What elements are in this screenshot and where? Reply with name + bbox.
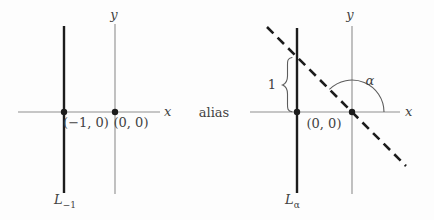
figure-container: x y (−1, 0) (0, 0) L−1 alias x y α 1 (0,… [0, 0, 434, 220]
alias-label: alias [199, 105, 230, 120]
left-point-minus1-label: (−1, 0) [63, 115, 109, 130]
right-line-label-subscript: α [294, 200, 300, 210]
right-line-label-base: L [284, 192, 294, 207]
right-line-dot [294, 109, 300, 115]
right-line-label: Lα [284, 192, 300, 210]
right-origin-dot [349, 109, 355, 115]
left-origin-label: (0, 0) [114, 115, 149, 130]
unit-length-label: 1 [268, 77, 276, 92]
right-origin-label: (0, 0) [307, 116, 342, 131]
right-y-axis-label: y [345, 7, 354, 22]
left-diagram: x y (−1, 0) (0, 0) L−1 [18, 7, 172, 210]
angle-label: α [366, 73, 375, 88]
right-diagram: x y α 1 (0, 0) Lα [250, 7, 413, 210]
right-x-axis-label: x [405, 104, 413, 119]
unit-length-brace [283, 58, 293, 112]
alias-figure-svg: x y (−1, 0) (0, 0) L−1 alias x y α 1 (0,… [0, 0, 434, 220]
left-x-axis-label: x [164, 104, 172, 119]
left-line-label-subscript: −1 [63, 200, 76, 210]
left-y-axis-label: y [109, 7, 118, 22]
left-line-label: L−1 [53, 192, 76, 210]
left-line-label-base: L [53, 192, 63, 207]
